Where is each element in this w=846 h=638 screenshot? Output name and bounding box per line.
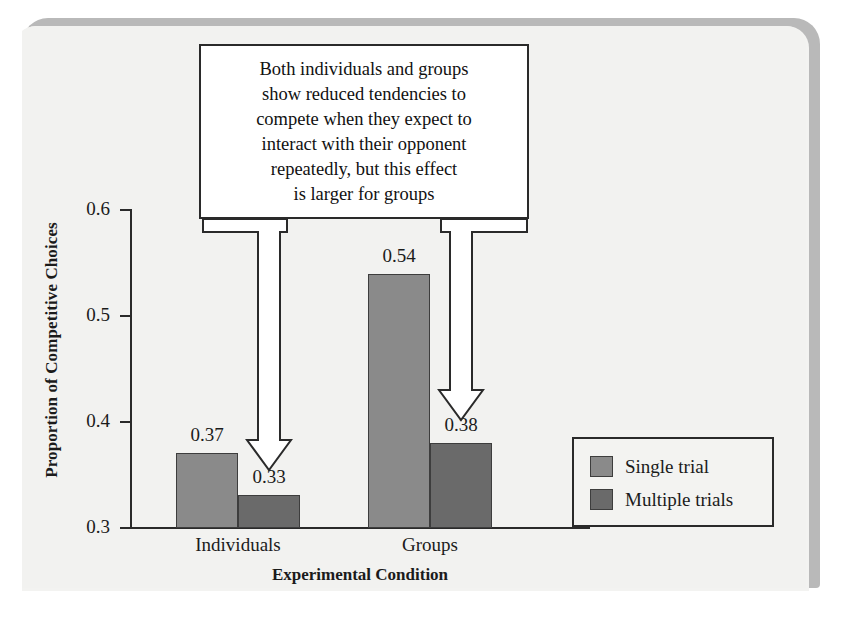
legend-swatch-icon-single-trial [590,456,613,477]
annotation-line-1: show reduced tendencies to [256,82,472,107]
bar-value-individuals-single-trial: 0.37 [167,424,247,446]
y-tick-mark-3 [120,527,131,529]
legend-label-multiple-trials: Multiple trials [625,489,733,511]
annotation-line-0: Both individuals and groups [256,57,472,82]
annotation-callout: Both individuals and groups show reduced… [199,44,529,219]
y-tick-mark-2 [120,421,131,423]
bar-value-groups-multiple-trials: 0.38 [421,414,501,436]
x-axis-title: Experimental Condition [130,565,590,585]
annotation-line-5: is larger for groups [256,182,472,207]
chart-legend: Single trial Multiple trials [572,437,774,527]
bar-value-individuals-multiple-trials: 0.33 [229,466,309,488]
y-tick-label-3: 0.3 [50,516,110,538]
bar-individuals-multiple-trials[interactable] [238,495,300,528]
annotation-callout-text: Both individuals and groups show reduced… [242,57,486,207]
y-tick-label-0: 0.6 [50,198,110,220]
y-tick-label-1: 0.5 [50,304,110,326]
y-tick-mark-1 [120,315,131,317]
y-axis-title: Proportion of Competitive Choices [42,200,62,500]
figure-page: Proportion of Competitive Choices 0.6 0.… [0,0,846,638]
x-category-label-individuals: Individuals [138,534,338,556]
legend-label-single-trial: Single trial [625,456,709,478]
arrow-to-groups-multiple-trials [439,219,527,420]
bar-individuals-single-trial[interactable] [176,453,238,528]
y-tick-label-2: 0.4 [50,410,110,432]
legend-swatch-icon-multiple-trials [590,489,613,510]
annotation-line-3: interact with their opponent [256,132,472,157]
annotation-line-2: compete when they expect to [256,107,472,132]
y-tick-mark-0 [120,209,131,211]
y-axis-line [130,209,132,528]
bar-groups-multiple-trials[interactable] [430,443,492,528]
legend-item-multiple-trials[interactable]: Multiple trials [590,483,772,516]
annotation-line-4: repeatedly, but this effect [256,157,472,182]
x-category-label-groups: Groups [330,534,530,556]
bar-chart: Proportion of Competitive Choices 0.6 0.… [0,0,846,638]
legend-item-single-trial[interactable]: Single trial [590,450,772,483]
bar-value-groups-single-trial: 0.54 [359,245,439,267]
bar-groups-single-trial[interactable] [368,274,430,528]
